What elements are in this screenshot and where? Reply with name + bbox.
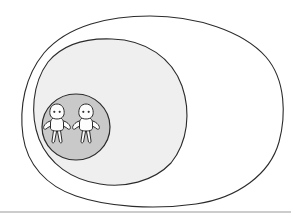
person-left-head <box>50 104 64 119</box>
person-left-eye-left <box>53 111 55 113</box>
person-right-eye-left <box>82 111 84 113</box>
person-right-head <box>79 104 93 119</box>
person-left-eye-right <box>59 111 61 113</box>
nested-enclosure-diagram: Three nested closed curves; two human fi… <box>0 0 291 222</box>
diagram-canvas: Three nested closed curves; two human fi… <box>0 0 291 222</box>
person-right-eye-right <box>88 111 90 113</box>
